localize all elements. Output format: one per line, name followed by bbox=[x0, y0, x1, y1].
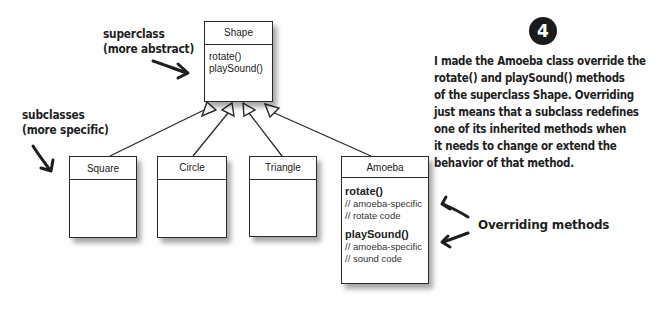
arrowhead-amoeba-icon bbox=[265, 104, 279, 117]
inheritance-line-circle bbox=[193, 113, 228, 156]
inheritance-line-square bbox=[110, 110, 204, 156]
method-comment: // amoeba-specific bbox=[345, 241, 425, 253]
class-box-shape: Shape rotate() playSound() bbox=[204, 21, 273, 102]
subclasses-label: subclasses (more specific) bbox=[22, 108, 109, 138]
method-playsound: playSound() bbox=[209, 63, 268, 75]
uml-inheritance-diagram: superclass (more abstract) subclasses (m… bbox=[0, 0, 664, 309]
class-box-triangle: Triangle bbox=[249, 156, 317, 237]
class-name-shape: Shape bbox=[205, 22, 272, 45]
inheritance-line-amoeba bbox=[270, 111, 371, 156]
class-box-amoeba: Amoeba rotate() // amoeba-specific // ro… bbox=[341, 156, 429, 284]
superclass-label: superclass (more abstract) bbox=[103, 27, 194, 57]
step-number-badge: 4 bbox=[529, 17, 557, 45]
method-rotate: rotate() bbox=[209, 51, 268, 63]
method-comment: // amoeba-specific bbox=[345, 198, 425, 210]
overriding-methods-label: Overriding methods bbox=[478, 217, 609, 232]
arrowhead-triangle-icon bbox=[243, 103, 255, 116]
method-comment: // sound code bbox=[345, 253, 425, 265]
class-name-square: Square bbox=[70, 157, 136, 180]
inheritance-line-triangle bbox=[249, 113, 282, 156]
class-box-circle: Circle bbox=[157, 156, 227, 238]
class-name-circle: Circle bbox=[158, 157, 226, 180]
method-rotate-override: rotate() bbox=[345, 185, 425, 198]
method-comment: // rotate code bbox=[345, 210, 425, 222]
explanation-note: I made the Amoeba class override the rot… bbox=[434, 53, 646, 172]
class-name-amoeba: Amoeba bbox=[342, 157, 428, 178]
method-playsound-override: playSound() bbox=[345, 228, 425, 241]
arrowhead-circle-icon bbox=[222, 103, 234, 116]
class-box-square: Square bbox=[69, 156, 137, 238]
class-name-triangle: Triangle bbox=[250, 157, 316, 180]
arrowhead-square-icon bbox=[202, 102, 216, 116]
